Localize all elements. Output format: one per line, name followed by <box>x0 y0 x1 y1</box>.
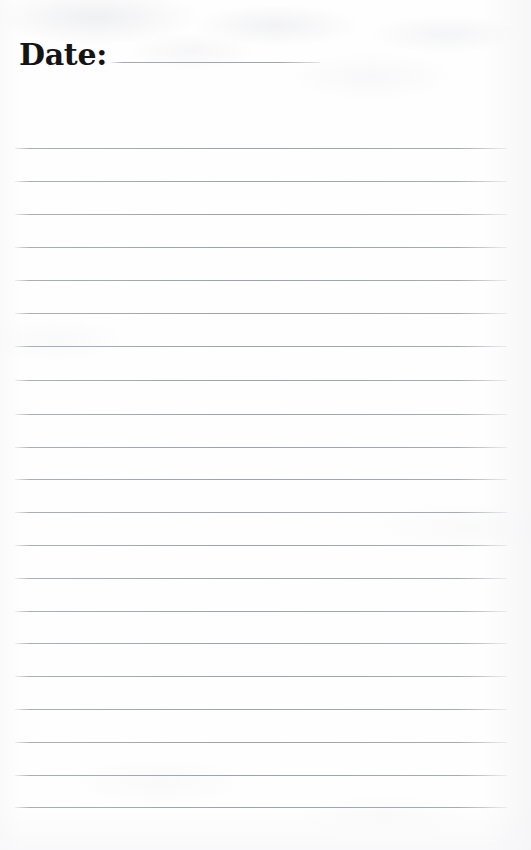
writing-line-16[interactable] <box>15 643 507 644</box>
writing-line-13[interactable] <box>15 545 507 546</box>
writing-line-17[interactable] <box>15 676 507 677</box>
writing-line-20[interactable] <box>15 775 507 776</box>
notepad-page: Date: <box>0 0 531 850</box>
writing-line-2[interactable] <box>15 181 507 182</box>
writing-line-21[interactable] <box>15 807 507 808</box>
writing-line-8[interactable] <box>15 380 507 381</box>
writing-line-6[interactable] <box>15 313 507 314</box>
ruled-lines-area <box>0 0 531 850</box>
writing-line-12[interactable] <box>15 512 507 513</box>
writing-line-9[interactable] <box>15 414 507 415</box>
writing-line-14[interactable] <box>15 578 507 579</box>
writing-line-5[interactable] <box>15 280 507 281</box>
writing-line-18[interactable] <box>15 709 507 710</box>
writing-line-11[interactable] <box>15 479 507 480</box>
writing-line-15[interactable] <box>15 611 507 612</box>
writing-line-7[interactable] <box>15 346 507 347</box>
writing-line-4[interactable] <box>15 247 507 248</box>
writing-line-1[interactable] <box>15 148 507 149</box>
writing-line-19[interactable] <box>15 742 507 743</box>
writing-line-10[interactable] <box>15 447 507 448</box>
writing-line-3[interactable] <box>15 214 507 215</box>
